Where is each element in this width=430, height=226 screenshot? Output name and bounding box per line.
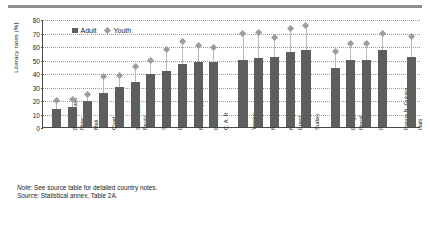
y-axis-tick-label: 10 — [33, 111, 40, 118]
bar-adult — [178, 64, 187, 127]
y-axis-tick-label: 0 — [36, 125, 40, 132]
bar-group: Senegal — [146, 19, 155, 127]
y-axis-tick-label: 80 — [33, 17, 40, 24]
y-axis-tick-label: 60 — [33, 44, 40, 51]
y-axis-tick-mark — [41, 128, 44, 129]
bars-layer: Burkina FasoNigerMaliChadSierra LeoneBen… — [43, 20, 420, 127]
x-axis-category-label: Mali — [93, 120, 99, 130]
bar-group: Sierra Leone — [115, 19, 124, 127]
bar-adult — [331, 68, 340, 127]
legend-diamond-icon — [104, 27, 111, 34]
y-axis-tick-label: 70 — [33, 30, 40, 37]
bar-adult — [99, 93, 108, 127]
bar-group: Côte d'Ivoire — [194, 19, 203, 127]
bar-group: Burkina Faso — [52, 19, 61, 127]
bar-adult — [378, 50, 387, 127]
bar-adult — [68, 107, 77, 127]
bar-adult — [270, 57, 279, 127]
legend-label-adult: Adult — [81, 27, 97, 34]
note-lead: Note: — [17, 184, 32, 191]
bar-group: Mozambique — [178, 19, 187, 127]
y-axis-tick-label: 20 — [33, 98, 40, 105]
marker-youth — [331, 48, 338, 55]
footnotes: Note: See source table for detailed coun… — [17, 184, 157, 201]
marker-youth — [194, 42, 201, 49]
bar-adult — [301, 50, 310, 127]
bar-group: Chad — [99, 19, 108, 127]
marker-youth — [210, 44, 217, 51]
y-axis-tick-label: 50 — [33, 57, 40, 64]
bar-adult — [194, 62, 203, 127]
legend-label-youth: Youth — [113, 27, 131, 34]
marker-youth — [379, 30, 386, 37]
marker-youth — [363, 40, 370, 47]
bar-group: Bangladesh — [331, 19, 340, 127]
marker-youth — [408, 33, 415, 40]
marker-youth — [179, 38, 186, 45]
youth-stem — [306, 26, 307, 50]
bar-adult — [52, 109, 61, 127]
bar-group: Mauritania — [270, 19, 279, 127]
legend-item-youth: Youth — [105, 27, 131, 34]
bar-group: Egypt — [286, 19, 295, 127]
bar-adult — [238, 60, 247, 128]
marker-youth — [131, 63, 138, 70]
bar-adult — [286, 52, 295, 127]
bar-adult — [83, 101, 92, 127]
bar-group: Benin — [131, 19, 140, 127]
bar-group: Ethiopia — [162, 19, 171, 127]
bar-group: Papua N. Guinea — [378, 19, 387, 127]
marker-youth — [147, 57, 154, 64]
plot-area: 01020304050607080 Burkina FasoNigerMaliC… — [42, 20, 420, 128]
bar-group: Nepal — [346, 19, 355, 127]
bar-adult — [209, 62, 218, 127]
marker-youth — [287, 25, 294, 32]
marker-youth — [255, 29, 262, 36]
chart-legend: Adult Youth — [72, 27, 131, 34]
marker-youth — [100, 73, 107, 80]
marker-youth — [53, 97, 60, 104]
marker-youth — [239, 30, 246, 37]
bar-group: Haiti — [407, 19, 416, 127]
source-text: Statistical annex, Table 2A. — [39, 192, 117, 199]
bar-adult — [346, 60, 355, 128]
legend-square-icon — [72, 28, 78, 34]
bar-adult — [146, 74, 155, 127]
bar-adult — [162, 71, 171, 127]
marker-youth — [347, 40, 354, 47]
marker-youth — [84, 91, 91, 98]
legend-item-adult: Adult — [72, 27, 96, 34]
y-axis-tick-label: 30 — [33, 84, 40, 91]
marker-youth — [163, 46, 170, 53]
bar-group: Sudan — [301, 19, 310, 127]
note-text: See source table for detailed country no… — [32, 184, 157, 191]
bar-group: C. A. R. — [209, 19, 218, 127]
bar-group: Mali — [83, 19, 92, 127]
bar-adult — [254, 58, 263, 127]
chart-figure: Literacy rates (%) 01020304050607080 Bur… — [0, 0, 430, 226]
bar-group: Yemen — [238, 19, 247, 127]
x-axis-category-label: Haiti — [417, 119, 423, 130]
bar-adult — [115, 87, 124, 127]
x-axis-category-label: C. A. R. — [223, 111, 229, 130]
bar-group: Morocco — [254, 19, 263, 127]
bar-group: Niger — [68, 19, 77, 127]
marker-youth — [302, 22, 309, 29]
youth-stem — [243, 34, 244, 60]
marker-youth — [68, 96, 75, 103]
bar-adult — [131, 82, 140, 127]
y-axis-title: Literacy rates (%) — [12, 0, 19, 96]
source-lead: Source: — [17, 192, 39, 199]
bar-adult — [407, 57, 416, 127]
marker-youth — [271, 34, 278, 41]
bar-group: Pakistan — [362, 19, 371, 127]
x-axis-category-label: Sudan — [314, 114, 320, 130]
marker-youth — [116, 72, 123, 79]
bar-adult — [362, 60, 371, 128]
source-line: Source: Statistical annex, Table 2A. — [17, 192, 157, 200]
note-line: Note: See source table for detailed coun… — [17, 184, 157, 192]
y-axis-tick-label: 40 — [33, 71, 40, 78]
